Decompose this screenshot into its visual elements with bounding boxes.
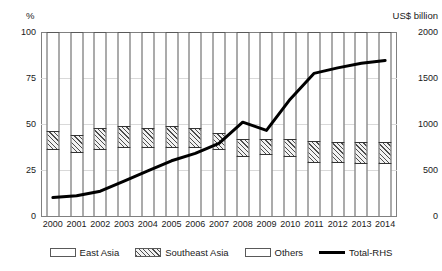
bar-segment-others	[46, 32, 59, 131]
stacked-bar[interactable]	[141, 32, 154, 216]
x-tick-label: 2010	[280, 219, 300, 229]
x-axis-labels: 2000200120022003200420052006200720082009…	[41, 219, 397, 235]
bar-segment-southeast-asia	[331, 142, 344, 162]
bar-segment-southeast-asia	[284, 139, 297, 157]
bar-slot	[65, 32, 89, 216]
bar-slot	[278, 32, 302, 216]
bar-segment-southeast-asia	[379, 142, 392, 164]
bar-segment-others	[355, 32, 368, 142]
stipple-swatch	[50, 248, 76, 257]
stacked-bar[interactable]	[260, 32, 273, 216]
bar-segment-others	[307, 32, 320, 141]
plot-area	[41, 32, 397, 216]
hatch-swatch	[135, 248, 161, 257]
bar-slot	[350, 32, 374, 216]
stacked-bar[interactable]	[212, 32, 225, 216]
legend-label: East Asia	[80, 247, 120, 258]
bar-segment-east-asia	[331, 163, 344, 216]
line-swatch	[319, 251, 345, 254]
y-tick-label-left: 25	[6, 165, 36, 175]
stacked-bar[interactable]	[118, 32, 131, 216]
bar-segment-east-asia	[307, 163, 320, 216]
bar-slot	[183, 32, 207, 216]
stacked-bar[interactable]	[284, 32, 297, 216]
x-tick-label: 2007	[209, 219, 229, 229]
y-tick-label-left: 0	[6, 211, 36, 221]
chart-container: % US$ billion 0255075100 050010001500200…	[0, 0, 442, 271]
stacked-bar[interactable]	[189, 32, 202, 216]
bar-segment-southeast-asia	[94, 128, 107, 150]
x-tick-label: 2008	[233, 219, 253, 229]
x-tick-label: 2012	[328, 219, 348, 229]
stacked-bar[interactable]	[379, 32, 392, 216]
stacked-bar[interactable]	[94, 32, 107, 216]
chart-legend: East AsiaSoutheast AsiaOthersTotal-RHS	[0, 247, 442, 258]
stacked-bar[interactable]	[46, 32, 59, 216]
bar-segment-southeast-asia	[141, 128, 154, 148]
legend-label: Southeast Asia	[165, 247, 228, 258]
legend-label: Others	[275, 247, 304, 258]
stacked-bar[interactable]	[70, 32, 83, 216]
legend-item[interactable]: Southeast Asia	[135, 247, 228, 258]
x-tick-label: 2011	[304, 219, 323, 229]
legend-item[interactable]: East Asia	[50, 247, 120, 258]
stacked-bar[interactable]	[355, 32, 368, 216]
bar-segment-others	[141, 32, 154, 128]
x-tick-label: 2005	[162, 219, 182, 229]
x-tick-label: 2001	[67, 219, 87, 229]
bar-segment-east-asia	[355, 164, 368, 216]
x-tick-label: 2009	[256, 219, 276, 229]
x-tick-label: 2014	[375, 219, 395, 229]
bar-segment-east-asia	[379, 164, 392, 216]
legend-label: Total-RHS	[349, 247, 392, 258]
y-tick-label-left: 75	[6, 73, 36, 83]
bar-segment-east-asia	[189, 148, 202, 216]
bar-segment-southeast-asia	[70, 135, 83, 153]
bar-segment-others	[94, 32, 107, 128]
bar-segment-east-asia	[141, 148, 154, 216]
bar-segment-southeast-asia	[236, 139, 249, 157]
stacked-bar[interactable]	[331, 32, 344, 216]
bar-segment-east-asia	[94, 150, 107, 216]
bar-segment-southeast-asia	[46, 131, 59, 149]
legend-item[interactable]: Total-RHS	[319, 247, 392, 258]
bar-slot	[112, 32, 136, 216]
y-tick-label-right: 0	[404, 211, 438, 221]
bar-segment-others	[331, 32, 344, 142]
x-tick-label: 2004	[138, 219, 158, 229]
legend-item[interactable]: Others	[245, 247, 304, 258]
bar-segment-southeast-asia	[165, 126, 178, 148]
bar-segment-southeast-asia	[355, 142, 368, 164]
x-tick-label: 2002	[90, 219, 110, 229]
bar-slot	[160, 32, 184, 216]
bar-segment-east-asia	[236, 157, 249, 216]
stacked-bar[interactable]	[307, 32, 320, 216]
left-axis-title: %	[26, 10, 34, 21]
bar-segment-others	[189, 32, 202, 128]
bar-segment-others	[212, 32, 225, 133]
x-tick-label: 2006	[185, 219, 205, 229]
bar-slot	[302, 32, 326, 216]
y-tick-label-left: 50	[6, 119, 36, 129]
bar-slot	[231, 32, 255, 216]
stacked-bar[interactable]	[165, 32, 178, 216]
bar-segment-east-asia	[46, 150, 59, 216]
bar-segment-others	[70, 32, 83, 135]
bar-segment-southeast-asia	[212, 133, 225, 150]
x-tick-label: 2003	[114, 219, 134, 229]
bar-slot	[373, 32, 397, 216]
white-swatch	[245, 248, 271, 257]
bar-segment-southeast-asia	[189, 128, 202, 148]
bar-segment-southeast-asia	[260, 139, 273, 156]
bar-slot	[207, 32, 231, 216]
bar-slot	[136, 32, 160, 216]
bar-segment-southeast-asia	[307, 141, 320, 163]
x-tick-label: 2000	[43, 219, 63, 229]
bar-slot	[255, 32, 279, 216]
bar-segment-others	[379, 32, 392, 142]
stacked-bar[interactable]	[236, 32, 249, 216]
bar-segment-others	[260, 32, 273, 139]
bar-slot	[88, 32, 112, 216]
bar-slot	[41, 32, 65, 216]
bar-segment-others	[236, 32, 249, 139]
